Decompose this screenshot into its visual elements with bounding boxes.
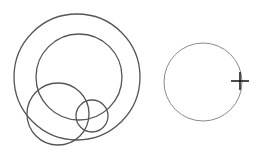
right-circle[interactable] — [164, 43, 242, 121]
small-circle[interactable] — [76, 100, 108, 132]
drawing-surface[interactable] — [0, 0, 267, 162]
shapes-layer — [14, 14, 242, 145]
drawing-canvas[interactable] — [0, 0, 267, 162]
crosshair-cursor-icon — [231, 72, 249, 90]
